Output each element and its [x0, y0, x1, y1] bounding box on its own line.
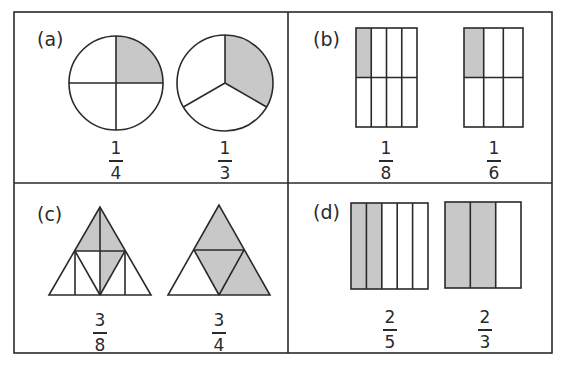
denominator: 8 — [85, 337, 115, 354]
numerator: 2 — [470, 309, 500, 326]
fraction-one-eighth: 1 8 — [371, 140, 401, 182]
fraction-bar — [478, 329, 492, 331]
denominator: 3 — [470, 334, 500, 351]
numerator: 1 — [479, 140, 509, 157]
fraction-one-sixth: 1 6 — [479, 140, 509, 182]
rectangle-sixths — [464, 28, 523, 127]
numerator: 2 — [375, 309, 405, 326]
panel-d-figures — [351, 202, 521, 289]
fraction-bar — [487, 160, 501, 162]
fraction-one-quarter: 1 4 — [101, 140, 131, 182]
numerator: 1 — [210, 140, 240, 157]
panel-c-label: (c) — [37, 203, 62, 225]
numerator: 1 — [101, 140, 131, 157]
numerator: 3 — [204, 312, 234, 329]
panel-b-figures — [356, 28, 523, 127]
shaded-sixth — [464, 28, 484, 78]
fraction-bar — [218, 160, 232, 162]
shaded-eighth — [356, 28, 371, 78]
fractions-diagram: (a) (b) (c) (d) 1 4 1 3 1 8 1 6 3 8 3 4 … — [0, 0, 563, 368]
panel-d-label: (d) — [313, 201, 340, 223]
shaded-top — [194, 205, 244, 250]
fraction-one-third: 1 3 — [210, 140, 240, 182]
triangle-eighths — [49, 207, 151, 295]
fraction-two-thirds: 2 3 — [470, 309, 500, 351]
circle-quarters — [69, 36, 163, 130]
fraction-two-fifths: 2 5 — [375, 309, 405, 351]
fraction-three-quarters: 3 4 — [204, 312, 234, 354]
numerator: 3 — [85, 312, 115, 329]
denominator: 8 — [371, 165, 401, 182]
fraction-bar — [93, 332, 107, 334]
panel-a-label: (a) — [37, 28, 63, 50]
fraction-bar — [109, 160, 123, 162]
panel-b-label: (b) — [313, 28, 340, 50]
fraction-bar — [212, 332, 226, 334]
rectangle-thirds — [445, 202, 521, 288]
fraction-bar — [379, 160, 393, 162]
denominator: 4 — [204, 337, 234, 354]
panel-c-figures — [49, 205, 270, 295]
rectangle-eighths — [356, 28, 417, 127]
fraction-bar — [383, 329, 397, 331]
fraction-three-eighths: 3 8 — [85, 312, 115, 354]
triangle-quarters — [168, 205, 270, 295]
denominator: 3 — [210, 165, 240, 182]
panel-a-figures — [69, 35, 273, 131]
circle-thirds — [177, 35, 273, 131]
denominator: 5 — [375, 334, 405, 351]
denominator: 4 — [101, 165, 131, 182]
numerator: 1 — [371, 140, 401, 157]
denominator: 6 — [479, 165, 509, 182]
rectangle-fifths — [351, 203, 428, 289]
